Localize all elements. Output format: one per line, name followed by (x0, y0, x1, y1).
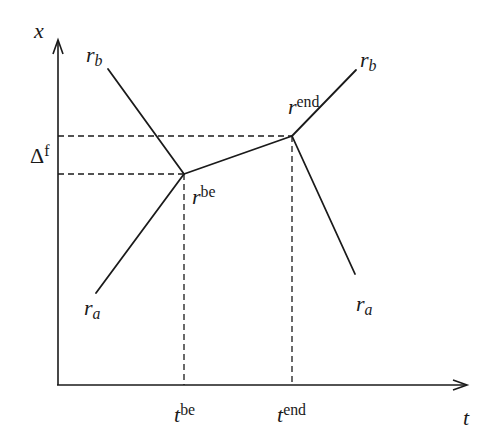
label-sub: b (95, 52, 103, 69)
label-base: r (288, 94, 297, 119)
label-sup: be (201, 183, 216, 200)
line-merged-segment (184, 136, 292, 174)
label-base: r (360, 47, 369, 72)
line-rb-left (108, 69, 184, 174)
label-ra-bottom-left: ra (84, 297, 100, 319)
label-base: r (84, 295, 93, 320)
label-t-end: tend (277, 404, 306, 426)
label-sup: end (283, 401, 306, 418)
label-rb-top-left: rb (86, 44, 102, 66)
label-sup: be (180, 401, 195, 418)
line-ra-right (292, 136, 355, 274)
label-sub: a (93, 305, 101, 322)
label-sub: a (365, 301, 373, 318)
label-sup: end (297, 93, 320, 110)
line-ra-left (96, 174, 184, 293)
label-sup: f (44, 142, 49, 159)
label-sub: b (369, 57, 377, 74)
x-axis-label: t (463, 407, 469, 429)
label-base: Δ (30, 143, 44, 168)
label-r-end: rend (288, 96, 319, 118)
label-ra-bottom-right: ra (356, 293, 372, 315)
label-t-be: tbe (174, 404, 195, 426)
label-base: r (192, 184, 201, 209)
diagram-canvas (0, 0, 486, 441)
label-base: r (86, 42, 95, 67)
label-delta-f: Δf (30, 145, 49, 167)
label-base: r (356, 291, 365, 316)
y-axis-label: x (34, 20, 44, 42)
label-rb-top-right: rb (360, 49, 376, 71)
label-r-be: rbe (192, 186, 216, 208)
